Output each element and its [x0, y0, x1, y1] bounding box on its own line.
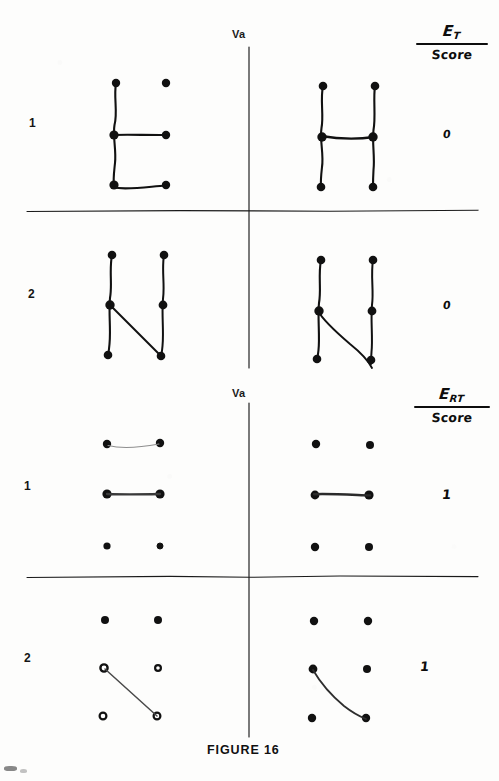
panel-ert-row2-left — [100, 616, 162, 719]
ert-row2-label: 2 — [24, 652, 31, 664]
et-axis-label: Va — [232, 29, 245, 40]
dot — [101, 616, 109, 624]
dot — [154, 616, 162, 624]
ert-score-header: ERT Score — [414, 385, 490, 425]
et-header-numerator: ET — [415, 22, 489, 41]
ert-row1-score: 1 — [441, 487, 452, 502]
ert-row1-label: 1 — [24, 480, 31, 492]
stroke-middle-horizontal — [321, 136, 374, 138]
dot-open — [155, 665, 161, 671]
et-header-subscript: T — [453, 30, 461, 41]
et-row2-label: 2 — [28, 288, 35, 300]
dot — [157, 543, 163, 549]
et-row1-label: 1 — [29, 117, 36, 129]
dot — [364, 617, 372, 625]
ert-row2-score: 1 — [419, 659, 430, 674]
panel-et-row2-left — [104, 251, 169, 361]
dot — [310, 617, 318, 625]
et-row2-score: 0 — [442, 299, 451, 312]
panel-et-row1-left — [109, 79, 170, 190]
ert-axis-label: Va — [232, 388, 245, 399]
stroke-middle-horizontal — [314, 494, 370, 495]
ert-header-numerator: ERT — [413, 385, 491, 404]
stroke-diagonal-curved — [313, 670, 366, 719]
ert-header-fraction-bar — [414, 406, 490, 408]
figure-caption: FIGURE 16 — [207, 744, 280, 757]
panel-et-row1-right — [317, 82, 380, 192]
dot — [365, 543, 373, 551]
stroke-top-horizontal-faint — [108, 444, 159, 447]
panel-ert-row1-left — [102, 439, 164, 550]
dot — [308, 714, 316, 722]
dot — [162, 79, 170, 87]
dot — [366, 441, 374, 449]
scan-smudge — [4, 766, 17, 771]
dot — [156, 439, 164, 447]
stroke-diagonal-straight — [105, 669, 157, 716]
panel-et-row2-right — [313, 256, 378, 368]
panel-ert-row1-right — [311, 440, 374, 551]
et-row1-score: 0 — [442, 128, 451, 141]
dot — [311, 543, 319, 551]
et-score-header: ET Score — [416, 22, 488, 62]
et-header-fraction-bar — [416, 43, 488, 45]
ert-header-subscript: RT — [449, 393, 465, 404]
dot — [363, 665, 371, 673]
scan-smudge — [20, 769, 27, 773]
et-header-denominator: Score — [415, 47, 488, 62]
figure-page: Va ET Score 1 2 0 0 Va ERT Score 1 2 1 1… — [0, 0, 499, 781]
stroke-diagonal — [110, 305, 161, 356]
ert-horizontal-axis — [27, 576, 478, 578]
dot — [312, 440, 320, 448]
dot-open — [100, 713, 107, 720]
et-horizontal-axis — [27, 210, 478, 211]
stroke-bottom-horizontal — [113, 186, 166, 189]
stroke-diagonal-overshoot — [318, 311, 372, 368]
panel-ert-row2-right — [308, 617, 372, 722]
dot — [103, 542, 110, 549]
ert-header-denominator: Score — [413, 410, 490, 425]
dot — [103, 440, 111, 448]
dot — [309, 665, 318, 674]
